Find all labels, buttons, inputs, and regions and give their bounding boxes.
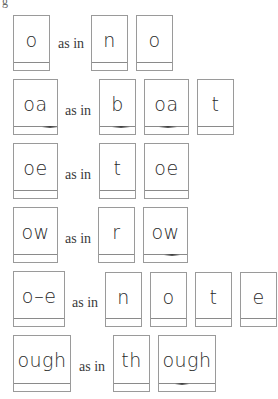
example-letters: oe: [145, 144, 188, 191]
phonogram-letters: oe: [14, 144, 57, 191]
phonogram-letters: ow: [14, 208, 57, 255]
as-in-label: as in: [65, 231, 91, 247]
print-smudge: [112, 126, 130, 128]
example-letter-card: t: [99, 143, 136, 199]
as-in-label: as in: [65, 167, 91, 183]
example-letters: t: [196, 273, 231, 320]
example-letters: oa: [145, 80, 188, 127]
example-letters: o: [151, 273, 186, 320]
as-in-label: as in: [58, 36, 84, 52]
card-baseline: [196, 318, 231, 319]
example-letter-card: ough: [158, 335, 216, 392]
example-letter-card: n: [105, 272, 142, 327]
example-letters: ow: [144, 208, 187, 255]
phonogram-card: oe: [13, 143, 58, 199]
phonogram-letters: o–e: [14, 272, 64, 319]
example-letters: t: [198, 80, 233, 127]
card-baseline: [241, 318, 276, 319]
phonogram-letters: o: [14, 16, 49, 63]
example-letter-card: th: [113, 335, 150, 392]
card-baseline: [145, 190, 188, 191]
print-smudge: [175, 383, 189, 385]
phonogram-card: ow: [13, 207, 58, 263]
example-letters: n: [92, 16, 127, 63]
card-baseline: [198, 126, 233, 127]
card-baseline: [99, 254, 134, 255]
card-baseline: [14, 318, 64, 319]
example-letter-card: o: [136, 15, 173, 71]
example-letter-card: ow: [143, 207, 188, 263]
as-in-label: as in: [72, 295, 98, 311]
phonogram-letters: ough: [14, 336, 70, 383]
card-baseline: [14, 190, 57, 191]
example-letter-card: t: [195, 272, 232, 327]
example-letter-card: oa: [144, 79, 189, 135]
phonogram-card: ough: [13, 335, 71, 392]
example-letters: th: [114, 336, 149, 383]
example-letter-card: t: [197, 79, 234, 135]
print-smudge: [159, 126, 177, 128]
example-letter-card: n: [91, 15, 128, 71]
print-smudge: [164, 254, 180, 256]
example-letters: t: [100, 144, 135, 191]
phonogram-card: o: [13, 15, 50, 71]
phonogram-letters: oa: [14, 80, 57, 127]
as-in-label: as in: [79, 359, 105, 375]
example-letter-card: oe: [144, 143, 189, 199]
phonogram-card: o–e: [13, 271, 65, 327]
example-letters: r: [99, 208, 134, 255]
example-letters: n: [106, 273, 141, 320]
card-baseline: [137, 62, 172, 63]
card-baseline: [14, 383, 70, 384]
example-letters: e: [241, 273, 276, 320]
example-letter-card: o: [150, 272, 187, 327]
as-in-label: as in: [65, 103, 91, 119]
example-letters: b: [100, 80, 135, 127]
example-letters: ough: [159, 336, 215, 383]
example-letter-card: b: [99, 79, 136, 135]
example-letter-card: e: [240, 272, 277, 327]
top-cropped-text: g: [2, 0, 8, 9]
print-smudge: [42, 126, 58, 128]
card-baseline: [106, 318, 141, 319]
phonogram-card: oa: [13, 79, 58, 135]
example-letter-card: r: [98, 207, 135, 263]
card-baseline: [92, 62, 127, 63]
card-baseline: [14, 254, 57, 255]
card-baseline: [151, 318, 186, 319]
card-baseline: [14, 62, 49, 63]
card-baseline: [100, 190, 135, 191]
example-letters: o: [137, 16, 172, 63]
card-baseline: [114, 383, 149, 384]
